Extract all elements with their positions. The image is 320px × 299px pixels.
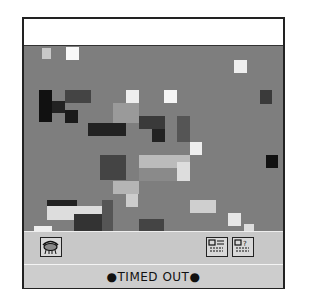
puzzle-tile[interactable]: [234, 60, 247, 73]
puzzle-tile[interactable]: [39, 90, 52, 122]
show-picture-button[interactable]: [40, 237, 62, 257]
puzzle-tile[interactable]: [190, 200, 216, 213]
options-button[interactable]: [206, 237, 228, 257]
eye-lens-icon: [41, 238, 60, 255]
puzzle-tile[interactable]: [52, 101, 65, 113]
svg-text:?: ?: [243, 240, 247, 248]
puzzle-tile[interactable]: [266, 155, 278, 168]
puzzle-tile[interactable]: [65, 110, 78, 123]
toolbar: ?: [24, 231, 283, 265]
puzzle-tile[interactable]: [228, 213, 241, 226]
puzzle-tile[interactable]: [126, 90, 139, 103]
puzzle-tile[interactable]: [177, 162, 190, 181]
puzzle-board[interactable]: [24, 46, 283, 231]
puzzle-tile[interactable]: [177, 116, 190, 142]
puzzle-tile[interactable]: [42, 48, 51, 59]
puzzle-window: ? ●TIMED OUT●: [22, 17, 285, 289]
help-icon: ?: [233, 238, 252, 255]
puzzle-tile[interactable]: [65, 90, 91, 103]
puzzle-tile[interactable]: [100, 155, 126, 180]
puzzle-tile[interactable]: [88, 123, 126, 136]
puzzle-tile[interactable]: [113, 181, 139, 194]
puzzle-tile[interactable]: [126, 194, 138, 207]
puzzle-tile[interactable]: [102, 200, 113, 231]
puzzle-tile[interactable]: [139, 116, 165, 129]
puzzle-tile[interactable]: [113, 103, 139, 123]
help-button[interactable]: ?: [232, 237, 254, 257]
puzzle-tile[interactable]: [244, 224, 254, 231]
puzzle-tile[interactable]: [139, 219, 164, 231]
puzzle-tile[interactable]: [66, 47, 79, 60]
puzzle-tile[interactable]: [152, 129, 165, 142]
status-text: ●TIMED OUT●: [107, 270, 201, 284]
status-bar: ●TIMED OUT●: [24, 264, 283, 288]
puzzle-tile[interactable]: [139, 168, 177, 181]
puzzle-tile[interactable]: [74, 214, 102, 231]
puzzle-tile[interactable]: [190, 142, 202, 155]
title-bar: [24, 19, 283, 46]
options-icon: [207, 238, 226, 255]
puzzle-tile[interactable]: [164, 90, 177, 103]
puzzle-tile[interactable]: [260, 90, 272, 104]
